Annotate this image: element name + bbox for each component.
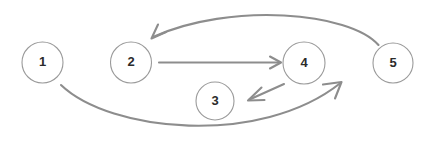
edge-4-to-3[interactable]	[248, 84, 284, 101]
edge-5-to-2-line	[153, 15, 379, 45]
node-2[interactable]: 2	[111, 42, 152, 83]
node-2-label: 2	[127, 54, 134, 69]
nodes-group: 1 2 3 4 5	[22, 42, 413, 120]
edge-2-to-4[interactable]	[159, 57, 281, 69]
node-3-label: 3	[211, 93, 218, 108]
node-4[interactable]: 4	[283, 42, 325, 84]
node-5[interactable]: 5	[373, 43, 413, 83]
node-4-label: 4	[300, 55, 308, 70]
node-1-label: 1	[39, 54, 46, 69]
node-1[interactable]: 1	[22, 42, 63, 83]
diagram-canvas: 1 2 3 4 5	[0, 0, 431, 150]
node-5-label: 5	[389, 55, 396, 70]
edge-4-to-3-line	[250, 84, 285, 100]
node-3[interactable]: 3	[196, 82, 234, 120]
edge-5-to-2[interactable]	[152, 15, 379, 45]
graph-svg: 1 2 3 4 5	[0, 0, 431, 150]
